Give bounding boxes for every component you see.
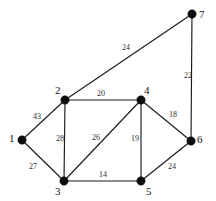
edge-weight-3-5: 14 — [99, 171, 107, 179]
edge-2-7 — [65, 14, 192, 100]
node-label-3: 3 — [55, 186, 61, 197]
node-7 — [188, 10, 196, 18]
edge-2-3 — [64, 100, 65, 181]
edge-4-6 — [141, 100, 191, 141]
node-label-1: 1 — [9, 133, 15, 144]
edge-1-3 — [22, 140, 64, 181]
node-4 — [137, 96, 145, 104]
edge-weight-1-2: 43 — [33, 113, 41, 121]
node-label-7: 7 — [199, 9, 205, 20]
node-2 — [61, 96, 69, 104]
node-label-4: 4 — [144, 85, 150, 96]
edges-group — [22, 14, 192, 181]
edge-5-6 — [141, 141, 191, 181]
edge-weight-5-6: 24 — [168, 163, 176, 171]
node-label-6: 6 — [197, 134, 203, 145]
graph-diagram: 4327282024261419182422 1234567 — [0, 0, 216, 201]
node-label-5: 5 — [146, 186, 152, 197]
edge-weight-2-4: 20 — [97, 90, 105, 98]
edge-weight-2-7: 24 — [122, 44, 130, 52]
node-6 — [187, 137, 195, 145]
edge-weight-2-3: 28 — [56, 135, 64, 143]
edge-weight-1-3: 27 — [29, 163, 37, 171]
edge-3-4 — [64, 100, 141, 181]
node-label-2: 2 — [55, 85, 61, 96]
edge-weight-4-6: 18 — [169, 111, 177, 119]
node-3 — [60, 177, 68, 185]
node-1 — [18, 136, 26, 144]
edge-weight-6-7: 22 — [184, 72, 192, 80]
edge-weight-4-5: 19 — [131, 135, 139, 143]
edge-weight-3-4: 26 — [92, 134, 100, 142]
node-5 — [137, 177, 145, 185]
